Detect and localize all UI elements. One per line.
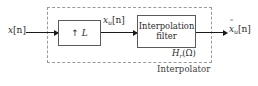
intermediate-signal-label: xu[n] — [103, 15, 125, 26]
filter-label-line1: Interpolation — [139, 22, 195, 32]
upsample-factor-label: L — [82, 28, 88, 38]
upsampler-block: ↑L — [58, 20, 101, 46]
filter-block-text: Interpolation filter — [139, 22, 195, 42]
omega-symbol: Ω — [186, 48, 193, 58]
interpolator-enclosure-label: Interpolator — [157, 64, 210, 74]
tilde-accent-icon: ˜ — [230, 19, 234, 27]
output-signal-index: [n] — [238, 24, 251, 34]
interpolator-block-diagram: Interpolator x[n] ↑L xu[n] Interpolation… — [0, 0, 258, 86]
input-signal-index: [n] — [13, 25, 26, 35]
transfer-function-close-paren: ) — [193, 48, 196, 58]
input-signal-label: x[n] — [8, 25, 26, 35]
up-arrow-icon: ↑ — [71, 28, 79, 38]
output-signal-symbol-group: ˜x — [229, 24, 234, 34]
output-arrowhead — [223, 30, 228, 36]
intermediate-signal-index: [n] — [112, 15, 125, 25]
filter-label-line2: filter — [139, 32, 195, 42]
output-wire — [196, 32, 224, 33]
transfer-function-label: Hr(Ω) — [172, 48, 196, 59]
output-signal-label: ˜xu[n] — [229, 24, 251, 35]
intermediate-wire — [101, 32, 137, 33]
interpolation-filter-block: Interpolation filter — [137, 15, 196, 48]
